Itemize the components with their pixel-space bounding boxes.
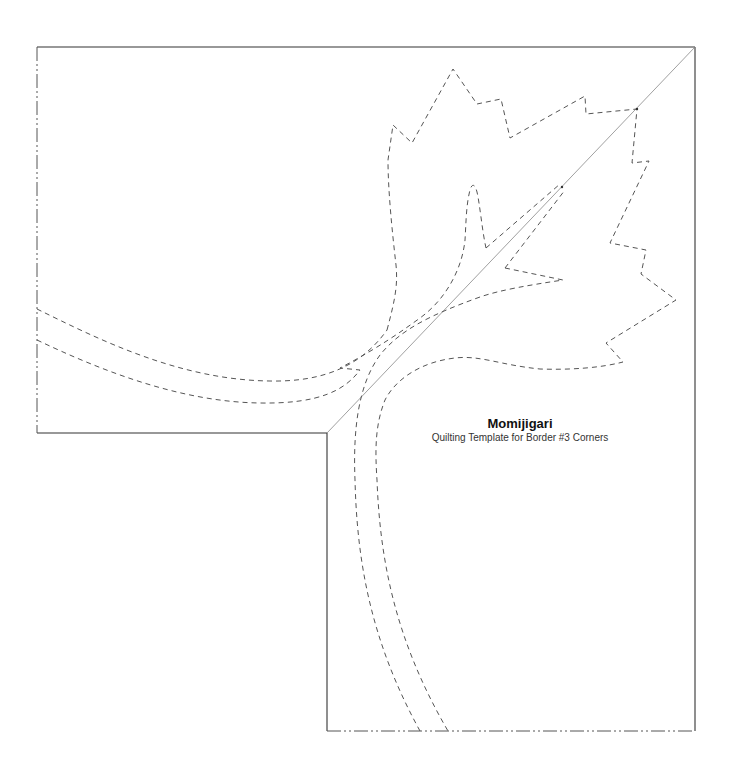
miter-line bbox=[327, 47, 695, 433]
fold-edges bbox=[37, 47, 695, 731]
template-title: Momijigari bbox=[410, 416, 630, 431]
border-curve-lower bbox=[37, 340, 360, 403]
leaf-outline bbox=[376, 69, 676, 731]
title-block: Momijigari Quilting Template for Border … bbox=[410, 416, 630, 444]
template-subtitle: Quilting Template for Border #3 Corners bbox=[410, 431, 630, 444]
stem-inner-line bbox=[355, 268, 563, 731]
outline bbox=[37, 47, 695, 731]
registration-dot bbox=[636, 108, 638, 110]
template-diagram bbox=[0, 0, 738, 772]
border-curve-upper bbox=[37, 309, 387, 381]
stem-upper-line bbox=[486, 184, 560, 248]
registration-dot bbox=[561, 186, 563, 188]
leaf-inner-lobe bbox=[340, 185, 486, 368]
stem-lower-line bbox=[505, 190, 565, 268]
quilting-lines bbox=[37, 69, 676, 731]
